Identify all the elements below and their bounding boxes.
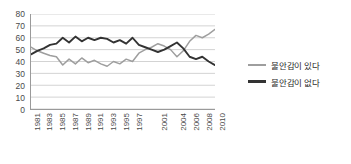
legend-label: 불안감이 없다 (271, 76, 320, 88)
y-tick-label: 20 (16, 82, 25, 91)
legend-label: 불안감이 있다 (271, 59, 320, 71)
legend-item[interactable]: 불안감이 없다 (248, 73, 348, 90)
y-tick-label: 10 (16, 94, 25, 103)
y-tick-label: 60 (16, 34, 25, 43)
y-tick-label: 30 (16, 70, 25, 79)
y-tick-label: 50 (16, 46, 25, 55)
x-tick-label: 1995 (123, 113, 131, 131)
x-tick-label: 1983 (46, 113, 54, 131)
x-tick-label: 2004 (180, 113, 188, 131)
x-tick-label: 1993 (110, 113, 118, 131)
y-axis-labels: 01020304050607080 (0, 0, 28, 124)
x-tick-label: 2006 (193, 113, 201, 131)
y-tick-label: 80 (16, 10, 25, 19)
x-axis-labels: 1981198319851987198919911993199519972001… (30, 110, 215, 164)
x-tick-label: 2010 (219, 113, 227, 131)
legend-item[interactable]: 불안감이 있다 (248, 56, 348, 73)
series-line (31, 29, 215, 66)
series-lines (31, 14, 215, 109)
legend-swatch-icon (248, 80, 266, 83)
chart-legend: 불안감이 있다불안감이 없다 (248, 56, 348, 90)
x-tick-label: 2008 (206, 113, 214, 131)
y-tick-label: 0 (20, 106, 25, 115)
x-tick-label: 1989 (85, 113, 93, 131)
y-tick-label: 70 (16, 22, 25, 31)
plot-area (30, 14, 215, 110)
x-tick-label: 1997 (136, 113, 144, 131)
x-tick-label: 1985 (59, 113, 67, 131)
line-chart: 01020304050607080 1981198319851987198919… (0, 0, 351, 164)
x-tick-label: 2001 (161, 113, 169, 131)
x-tick-label: 1991 (97, 113, 105, 131)
legend-swatch-icon (248, 64, 266, 66)
x-tick-label: 1981 (34, 113, 42, 131)
y-tick-label: 40 (16, 58, 25, 67)
x-tick-label: 1987 (72, 113, 80, 131)
